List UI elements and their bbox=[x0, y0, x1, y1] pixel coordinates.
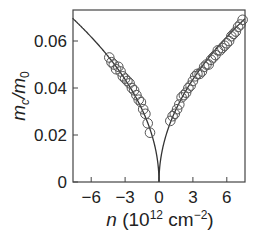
y-tick-label: 0.02 bbox=[34, 126, 67, 145]
x-tick-label: −6 bbox=[82, 188, 101, 207]
y-tick-label: 0 bbox=[58, 173, 67, 192]
x-tick-label: −3 bbox=[115, 188, 134, 207]
x-tick-label: 3 bbox=[188, 188, 197, 207]
y-tick-label: 0.04 bbox=[34, 79, 67, 98]
x-tick-label: 6 bbox=[222, 188, 231, 207]
plot-frame bbox=[73, 10, 245, 182]
plot-area bbox=[73, 15, 248, 182]
x-axis-label: n (1012 cm−2) bbox=[106, 208, 213, 230]
y-axis-label: mc/m0 bbox=[8, 71, 32, 121]
y-axis: 00.020.040.06 bbox=[34, 32, 78, 192]
x-tick-label: 0 bbox=[154, 188, 163, 207]
fit-curve-left bbox=[73, 18, 159, 182]
y-tick-label: 0.06 bbox=[34, 32, 67, 51]
scatter-chart: −6−3036 00.020.040.06 n (1012 cm−2) mc/m… bbox=[0, 0, 257, 240]
